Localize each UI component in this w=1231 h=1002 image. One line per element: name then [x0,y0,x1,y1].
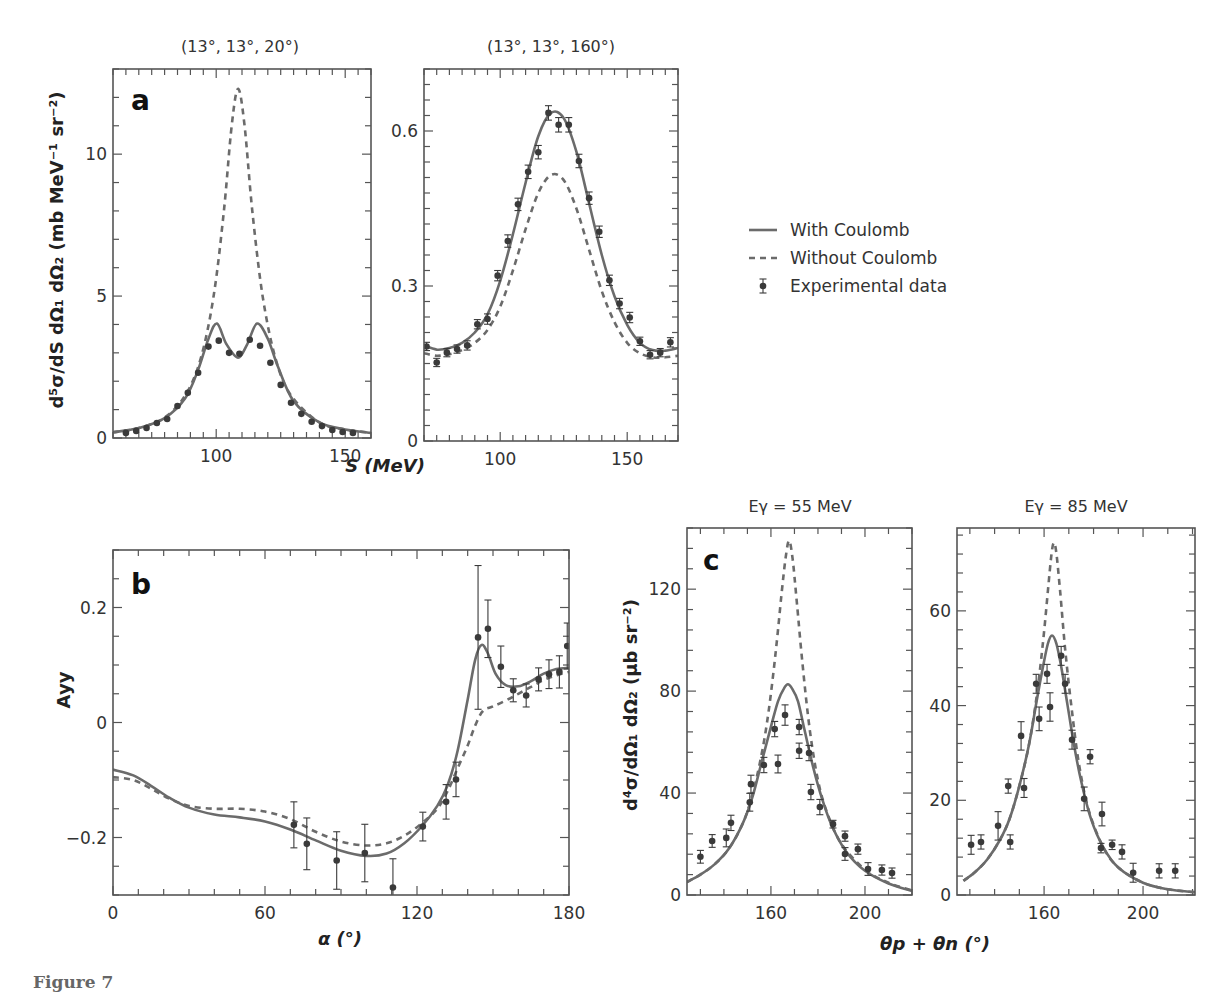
b-x-axis-label: α (°) [318,928,362,949]
without-coulomb-curve [687,541,912,891]
panel-title: Eγ = 85 MeV [1024,497,1127,516]
panel-letter-a: a [131,84,150,117]
x-tick-label: 200 [849,903,881,923]
c-y-axis-label: d⁴σ/dΩ₁ dΩ₂ (μb sr⁻²) [620,599,641,811]
b-y-axis-label: Ayy [53,671,74,708]
y-tick-label: 0.3 [391,276,418,296]
c-x-axis-label: θp + θn (°) [880,933,990,954]
without-coulomb-curve [424,174,678,358]
panel-a-left: 1001500510(13°, 13°, 20°) [85,37,371,466]
y-tick-label: 20 [929,790,951,810]
without-coulomb-curve [113,89,371,433]
figure-caption: Figure 7 [33,972,113,992]
axis-ticks [113,69,371,438]
legend-label: With Coulomb [790,220,910,240]
y-tick-label: 60 [929,601,951,621]
y-tick-label: 0.2 [80,598,107,618]
experimental-data-points [968,646,1179,882]
panel-title: (13°, 13°, 20°) [181,37,299,56]
a-y-axis-label: d⁵σ/dS dΩ₁ dΩ₂ (mb MeV⁻¹ sr⁻²) [46,91,67,408]
y-tick-label: 10 [85,144,107,164]
experimental-data-points [423,106,674,367]
with-coulomb-curve [113,324,371,433]
y-tick-label: 0 [940,885,951,905]
with-coulomb-curve [424,111,678,350]
x-tick-label: 180 [553,903,585,923]
a-x-axis-label: S (MeV) [345,455,425,476]
panel-title: Eγ = 55 MeV [748,497,851,516]
panel-b: 060120180−0.200.2 [66,550,586,923]
axis-ticks [424,69,678,441]
legend-label: Experimental data [790,276,947,296]
x-tick-label: 160 [1028,903,1060,923]
with-coulomb-curve [963,636,1195,893]
y-tick-label: 0 [96,428,107,448]
legend: With CoulombWithout CoulombExperimental … [749,220,947,296]
y-tick-label: 120 [649,579,681,599]
without-coulomb-curve [113,672,569,846]
experimental-data-points [290,566,570,917]
x-tick-label: 150 [611,449,643,469]
panel-title: (13°, 13°, 160°) [487,37,615,56]
experimental-data-points [123,336,357,436]
y-tick-label: 40 [929,696,951,716]
panel-c-left: 16020004080120Eγ = 55 MeV [649,497,912,923]
panel-c-right: 1602000204060Eγ = 85 MeV [929,497,1195,923]
y-tick-label: 0.6 [391,121,418,141]
y-tick-label: 40 [659,783,681,803]
panel-letter-b: b [131,568,151,601]
panel-a-right: 10015000.30.6(13°, 13°, 160°) [391,37,678,469]
plot-frame [957,528,1195,895]
with-coulomb-curve [687,684,912,891]
y-tick-label: 0 [96,713,107,733]
x-tick-label: 120 [401,903,433,923]
legend-label: Without Coulomb [790,248,937,268]
y-tick-label: 0 [670,885,681,905]
y-tick-label: 5 [96,286,107,306]
plot-frame [424,69,678,441]
x-tick-label: 200 [1127,903,1159,923]
axis-ticks [113,550,569,895]
plot-frame [113,550,569,895]
y-tick-label: −0.2 [66,828,107,848]
figure-canvas: 1001500510(13°, 13°, 20°)10015000.30.6(1… [0,0,1231,1002]
x-tick-label: 0 [108,903,119,923]
x-tick-label: 60 [254,903,276,923]
y-tick-label: 0 [407,431,418,451]
x-tick-label: 160 [755,903,787,923]
plot-frame [113,69,371,438]
y-tick-label: 80 [659,681,681,701]
axis-ticks [957,528,1195,895]
panel-letter-c: c [703,544,720,577]
x-tick-label: 100 [484,449,516,469]
x-tick-label: 100 [200,446,232,466]
legend-point-icon [760,279,767,293]
